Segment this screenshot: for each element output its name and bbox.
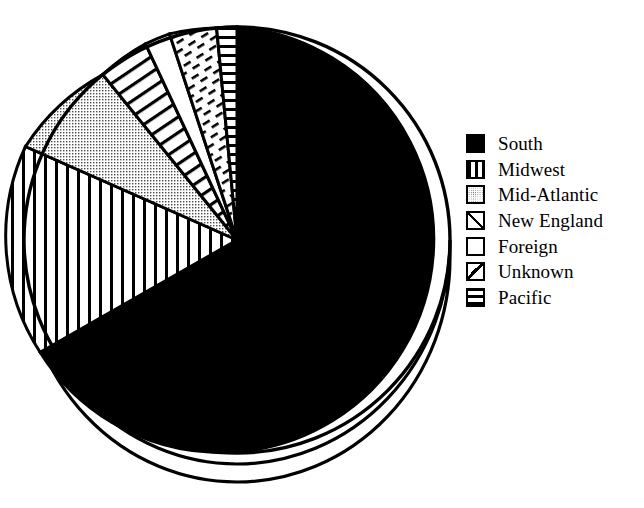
legend-label-south: South <box>498 134 543 153</box>
legend: South Midwest Mid-Atlantic New England F… <box>466 131 644 310</box>
solid-black-swatch <box>466 134 485 153</box>
horizontal-lines-swatch <box>466 288 485 307</box>
fine-dots-swatch <box>466 185 485 204</box>
legend-label-midwest: Midwest <box>498 160 565 179</box>
legend-item-pacific[interactable]: Pacific <box>466 285 644 311</box>
legend-item-south[interactable]: South <box>466 131 644 157</box>
blank-white-swatch <box>466 237 485 256</box>
legend-item-new-england[interactable]: New England <box>466 208 644 234</box>
legend-label-pacific: Pacific <box>498 288 551 307</box>
diagonal-hatch-swatch <box>466 211 485 230</box>
legend-label-new-england: New England <box>498 211 603 230</box>
pie-chart-figure: South Midwest Mid-Atlantic New England F… <box>0 0 644 508</box>
vertical-lines-swatch <box>466 160 485 179</box>
legend-label-unknown: Unknown <box>498 262 574 281</box>
legend-item-foreign[interactable]: Foreign <box>466 233 644 259</box>
legend-item-mid-atlantic[interactable]: Mid-Atlantic <box>466 182 644 208</box>
dashes-swatch <box>466 262 485 281</box>
legend-label-mid-atlantic: Mid-Atlantic <box>498 185 598 204</box>
pie-chart-graphic <box>0 0 470 508</box>
legend-item-unknown[interactable]: Unknown <box>466 259 644 285</box>
legend-item-midwest[interactable]: Midwest <box>466 157 644 183</box>
legend-label-foreign: Foreign <box>498 237 558 256</box>
